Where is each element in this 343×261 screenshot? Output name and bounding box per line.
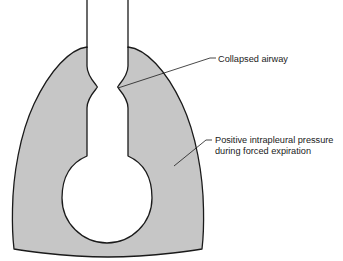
diagram-canvas: Collapsed airway Positive intrapleural p…: [0, 0, 343, 261]
lung-airway-diagram: Collapsed airway Positive intrapleural p…: [0, 0, 343, 261]
pleural-body-shape: [12, 47, 203, 257]
intrapleural-pressure-label-line1: Positive intrapleural pressure: [215, 135, 333, 145]
intrapleural-pressure-label-line2: during forced expiration: [215, 146, 311, 156]
collapsed-airway-label: Collapsed airway: [218, 54, 288, 64]
